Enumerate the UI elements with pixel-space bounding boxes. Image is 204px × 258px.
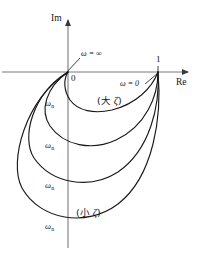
omega-n-sub-4: n: [51, 226, 54, 232]
omega-n-label-3: ωn: [45, 181, 54, 190]
unit-point-label: 1: [156, 55, 161, 64]
omega-zero-leader: [145, 73, 158, 84]
omega-n-sub-1: n: [51, 103, 54, 109]
large-zeta-prefix: (大: [97, 95, 114, 106]
small-zeta-prefix: (小: [76, 207, 93, 218]
omega-n-sub-3: n: [51, 185, 54, 191]
large-zeta-suffix: ): [118, 95, 122, 106]
omega-n-sub-2: n: [51, 145, 54, 151]
large-zeta-label: (大 ζ): [97, 96, 122, 107]
omega-infinity-label: ω = ∞: [81, 50, 102, 58]
small-zeta-suffix: ): [97, 207, 101, 218]
nyquist-plot-canvas: [0, 0, 204, 258]
omega-n-label-1: ωn: [45, 99, 54, 108]
omega-zero-label: ω = 0: [120, 80, 139, 88]
real-axis-label: Re: [176, 78, 187, 88]
imaginary-axis-label: Im: [51, 14, 62, 24]
omega-n-label-2: ωn: [45, 141, 54, 150]
nyquist-curve-small-zeta: [17, 72, 159, 218]
nyquist-curve-mid-high-zeta: [45, 72, 158, 146]
origin-label: 0: [71, 74, 76, 83]
nyquist-figure: Im Re 0 1 ω = ∞ ω = 0 ωn ωn ωn ωn (大 ζ) …: [0, 0, 204, 258]
small-zeta-label: (小 ζ): [76, 208, 101, 219]
omega-n-label-4: ωn: [45, 222, 54, 231]
